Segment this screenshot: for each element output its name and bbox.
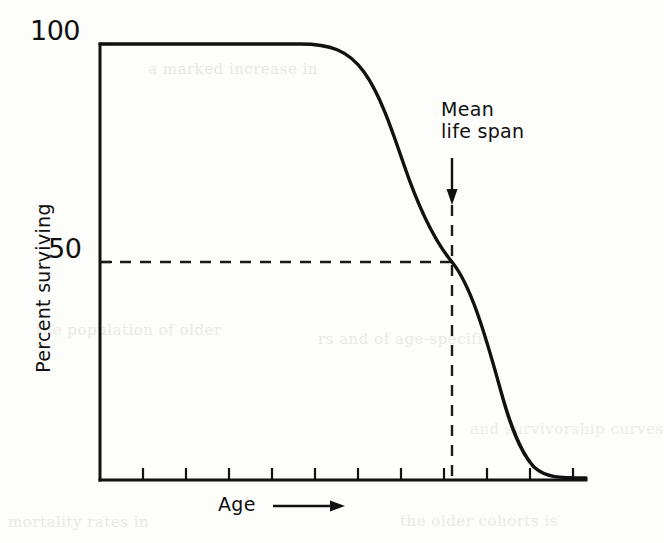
x-axis-label-group: Age — [218, 493, 349, 515]
right-arrow-icon — [271, 498, 349, 514]
y-axis-label: Percent surviving — [32, 168, 54, 408]
mean-life-span-annotation: Mean life span — [441, 98, 524, 142]
x-axis-ticks — [143, 468, 573, 480]
y-axis-ticks — [100, 44, 112, 262]
y-tick-label-100: 100 — [30, 15, 80, 46]
annotation-line-1: Mean — [441, 98, 524, 120]
x-axis-label: Age — [218, 493, 256, 515]
annotation-line-2: life span — [441, 120, 524, 142]
down-arrow-icon — [447, 158, 458, 205]
